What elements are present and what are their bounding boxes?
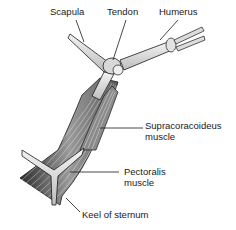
anatomy-illustration [0, 0, 236, 230]
tendon-leader-line [113, 20, 126, 60]
label-supracoracoideus: Supracoracoideus muscle [145, 120, 222, 142]
label-supracoracoideus-line1: Supracoracoideus [145, 120, 222, 131]
scapula-leader-line [76, 20, 84, 42]
label-pectoralis: Pectoralis muscle [124, 166, 166, 188]
label-scapula: Scapula [50, 6, 84, 17]
keel-leader-line [66, 198, 80, 212]
forearm-bones-shape [174, 27, 205, 51]
label-pectoralis-line1: Pectoralis [124, 166, 166, 177]
label-pectoralis-line2: muscle [124, 177, 166, 188]
label-supracoracoideus-line2: muscle [145, 131, 222, 142]
humerus-bone-shape [120, 38, 176, 70]
label-tendon: Tendon [107, 6, 138, 17]
label-keel: Keel of sternum [82, 209, 149, 220]
humerus-leader-line [160, 20, 178, 40]
label-humerus: Humerus [159, 6, 198, 17]
diagram-canvas: Scapula Tendon Humerus Supracoracoideus … [0, 0, 236, 230]
